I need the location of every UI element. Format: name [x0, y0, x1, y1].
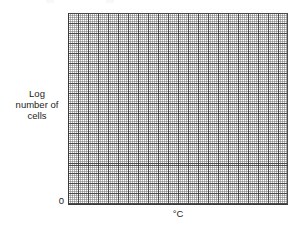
y-axis-label: Log number of cells [8, 88, 66, 121]
y-axis-label-line-2: number of [8, 99, 66, 110]
graph-figure: Log number of cells 0 °C [0, 0, 299, 235]
x-axis-line [68, 204, 288, 205]
origin-label: 0 [52, 196, 64, 206]
x-axis-label: °C [148, 208, 208, 219]
y-axis-line [68, 13, 69, 205]
major-gridline-horizontal [68, 165, 288, 166]
scan-artifact [46, 0, 156, 3]
y-axis-label-line-3: cells [8, 110, 66, 121]
y-axis-label-line-1: Log [8, 88, 66, 99]
plot-grid-area[interactable] [68, 13, 288, 205]
